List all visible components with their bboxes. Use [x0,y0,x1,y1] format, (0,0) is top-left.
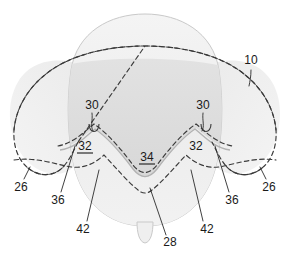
callout-10: 10 [244,53,258,67]
callout-26-right: 26 [262,180,276,194]
callout-34: 34 [140,150,154,164]
callout-32-left: 32 [78,139,92,153]
patent-figure-svg: 10 30 30 32 32 34 26 26 36 36 42 42 28 [0,0,290,259]
callout-42-right: 42 [200,222,214,236]
callout-28: 28 [163,235,177,249]
callout-32-right: 32 [189,139,203,153]
callout-36-right: 36 [225,193,239,207]
callout-26-left: 26 [14,180,28,194]
patent-figure-container: 10 30 30 32 32 34 26 26 36 36 42 42 28 [0,0,290,259]
callout-36-left: 36 [51,193,65,207]
callout-42-left: 42 [76,222,90,236]
callout-30-left: 30 [85,98,99,112]
callout-30-right: 30 [196,98,210,112]
